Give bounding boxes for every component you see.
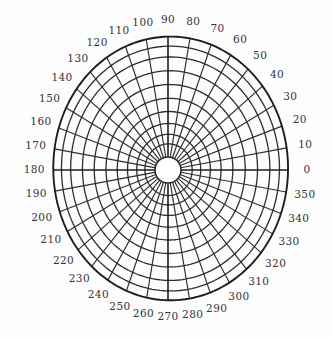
angular-tick-label-170: 170 (25, 139, 46, 151)
angular-tick-label-230: 230 (69, 272, 90, 284)
grid-spoke-280 (170, 183, 189, 299)
angular-tick-label-120: 120 (87, 36, 108, 48)
polar-grid-svg: 0102030405060708090100110120130140150160… (0, 0, 333, 337)
angular-tick-label-210: 210 (40, 233, 61, 245)
angular-tick-label-0: 0 (303, 163, 310, 175)
grid-spoke-190 (55, 172, 156, 191)
angular-tick-label-240: 240 (88, 288, 109, 300)
angular-tick-label-40: 40 (270, 68, 284, 80)
grid-spoke-10 (181, 148, 287, 168)
angular-tick-label-140: 140 (51, 71, 72, 83)
angular-tick-label-290: 290 (206, 302, 227, 314)
angular-tick-label-300: 300 (228, 290, 249, 302)
angular-tick-label-250: 250 (109, 300, 130, 312)
angular-tick-label-150: 150 (39, 92, 60, 104)
angular-tick-label-320: 320 (265, 257, 286, 269)
grid-spoke-80 (170, 38, 190, 156)
angular-tick-label-60: 60 (233, 33, 247, 45)
angular-tick-label-110: 110 (108, 24, 129, 36)
angular-tick-label-160: 160 (30, 115, 51, 127)
angular-tick-label-30: 30 (283, 90, 297, 102)
angular-tick-label-70: 70 (211, 22, 225, 34)
angular-tick-label-100: 100 (132, 16, 153, 28)
angular-tick-label-270: 270 (157, 310, 178, 322)
center-hole-circle (155, 157, 181, 183)
angular-tick-label-310: 310 (248, 275, 269, 287)
angular-tick-label-260: 260 (133, 307, 154, 319)
angular-tick-label-180: 180 (24, 163, 45, 175)
grid-spoke-350 (181, 172, 286, 192)
polar-chart: 0102030405060708090100110120130140150160… (0, 0, 333, 337)
angular-tick-label-220: 220 (53, 254, 74, 266)
angular-tick-label-130: 130 (67, 52, 88, 64)
angular-tick-label-90: 90 (161, 13, 175, 25)
angular-tick-label-10: 10 (298, 138, 312, 150)
angular-tick-label-330: 330 (278, 235, 299, 247)
angular-tick-label-280: 280 (182, 308, 203, 320)
angular-tick-label-350: 350 (294, 188, 315, 200)
angular-tick-label-340: 340 (288, 212, 309, 224)
angular-tick-label-200: 200 (31, 211, 52, 223)
angular-tick-label-20: 20 (293, 113, 307, 125)
angular-tick-label-190: 190 (26, 187, 47, 199)
angular-tick-label-50: 50 (253, 49, 267, 61)
angular-tick-label-80: 80 (186, 15, 200, 27)
